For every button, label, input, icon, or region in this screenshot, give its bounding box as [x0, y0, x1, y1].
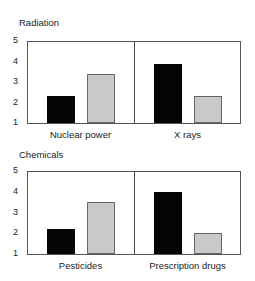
bar-gray	[194, 233, 222, 254]
y-tick-label: 1	[8, 117, 18, 127]
y-tick-label: 2	[8, 227, 18, 237]
y-tick-label: 2	[8, 97, 18, 107]
category-label: Prescription drugs	[133, 260, 243, 271]
bar-gray	[194, 96, 222, 123]
category-label: Pesticides	[26, 260, 136, 271]
bar-black	[154, 192, 182, 254]
bar-black	[47, 96, 75, 123]
category-label: X rays	[133, 129, 243, 140]
y-tick-label: 4	[8, 56, 18, 66]
bar-gray	[87, 202, 115, 254]
chart-title: Chemicals	[19, 149, 63, 160]
panel-divider	[134, 171, 135, 254]
bar-black	[47, 229, 75, 254]
y-tick-label: 3	[8, 76, 18, 86]
bar-gray	[87, 74, 115, 123]
y-tick-label: 4	[8, 186, 18, 196]
chart-title: Radiation	[19, 17, 59, 28]
bar-black	[154, 64, 182, 123]
category-label: Nuclear power	[26, 129, 136, 140]
y-tick-label: 1	[8, 248, 18, 258]
y-tick-label: 3	[8, 207, 18, 217]
y-tick-label: 5	[8, 165, 18, 175]
y-tick-label: 5	[8, 35, 18, 45]
panel-divider	[134, 41, 135, 123]
